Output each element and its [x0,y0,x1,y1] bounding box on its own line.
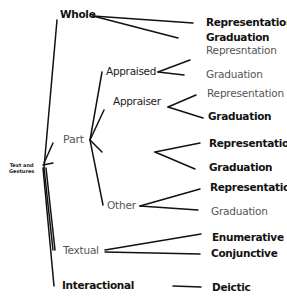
root-label-line2: Gestures [9,169,34,175]
text-and-gestures-diagram: Text and Gestures Whole Part Appraised A… [0,0,287,303]
edge-textual-enum [105,234,201,250]
leaf-appraiser-graduation: Graduation [208,111,271,122]
edge-appraiser-grad [168,107,203,118]
leaf-other-graduation: Graduation [211,206,268,217]
node-part: Part [63,134,84,145]
leaf-whole-representation: Representation [206,17,287,28]
leaf-interactional-deictic: Deictic [212,282,250,293]
leaf-whole-graduation: Graduation [206,32,269,43]
node-interactional: Interactional [62,280,134,291]
edge-textual-conj [105,252,200,254]
leaf-part-representation: Representation [209,138,287,149]
leaf-part-graduation: Graduation [209,162,272,173]
root-node: Text and Gestures [9,163,34,175]
node-whole: Whole [60,9,96,20]
leaf-textual-enumerative: Enumerative [212,232,284,243]
edge-other-grad [140,206,198,210]
leaf-textual-conjunctive: Conjunctive [211,248,277,259]
edge-appraised-rep [158,60,190,72]
node-other: Other [107,200,136,211]
node-textual: Textual [63,245,99,256]
edge-part-appraised [90,72,102,140]
edge-unlabeled-grad [155,152,195,169]
edge-appraiser-rep [168,95,196,107]
edge-other-rep [140,189,200,206]
edge-appraised-grad [158,72,184,75]
leaf-appraised-representation: Represntation [206,45,277,56]
edge-unlabeled-rep [155,143,200,152]
leaf-appraised-graduation: Graduation [206,69,263,80]
edge-part-other [90,140,103,205]
leaf-other-representation: Representation [210,182,287,193]
node-appraiser: Appraiser [113,96,161,107]
edge-root-whole [44,20,57,168]
edge-interactional-deictic [173,286,201,287]
leaf-appraiser-representation: Representation [207,88,284,99]
node-appraised: Appraised [106,66,156,77]
edge-root-textual [44,168,53,250]
